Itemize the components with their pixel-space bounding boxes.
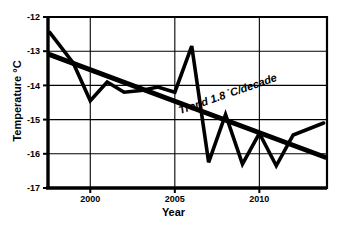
y-tick-label: -17 — [27, 183, 40, 193]
annotation-group: Trend 1.8 °C/decade — [177, 71, 278, 116]
x-tick-label: 2000 — [80, 194, 100, 204]
chart-canvas: -12-13-14-15-16-17 200020052010 Trend 1.… — [0, 0, 347, 230]
x-tick-label: 2005 — [165, 194, 185, 204]
x-axis-ticks: 200020052010 — [80, 188, 269, 204]
chart-figure: -12-13-14-15-16-17 200020052010 Trend 1.… — [0, 0, 347, 230]
y-tick-label: -13 — [27, 46, 40, 56]
annotation-text: Trend 1.8 °C/decade — [177, 71, 278, 116]
y-tick-label: -15 — [27, 115, 40, 125]
y-tick-label: -12 — [27, 12, 40, 22]
y-tick-label: -16 — [27, 149, 40, 159]
x-axis-label: Year — [0, 206, 347, 218]
y-axis-label: Temperature °C — [11, 41, 23, 161]
y-tick-label: -14 — [27, 81, 40, 91]
trend-annotation: Trend 1.8 °C/decade — [177, 71, 278, 116]
x-tick-label: 2010 — [249, 194, 269, 204]
y-axis-ticks: -12-13-14-15-16-17 — [27, 12, 48, 193]
